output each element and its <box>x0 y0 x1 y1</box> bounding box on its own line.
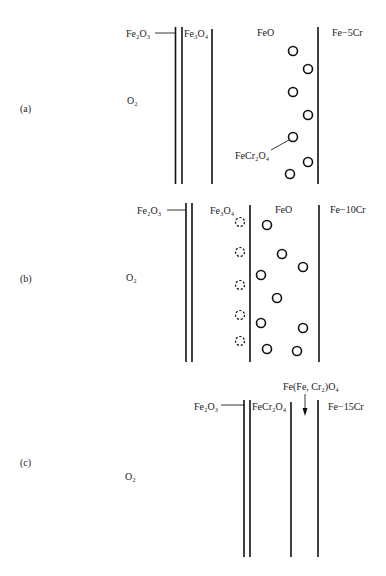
panel-a-gas-label: O₂ <box>127 95 138 106</box>
panel-a-fecr2o4-leader <box>271 140 289 150</box>
dashed-particle <box>236 311 245 320</box>
panel-c-tag: (c) <box>20 457 31 469</box>
particle <box>273 294 282 303</box>
panel-a-fecr2o4-particles <box>286 47 313 179</box>
panel-a-feo-label: FeO <box>257 27 274 38</box>
oxidation-scale-diagram: (a) O₂ Fe₂O₃ Fe₃O₄ FeO Fe−5Cr FeCr₂O₄ (b… <box>0 0 386 576</box>
dashed-particle <box>236 281 245 290</box>
panel-a-fecr2o4-label: FeCr₂O₄ <box>235 150 270 161</box>
dashed-particle <box>236 248 245 257</box>
panel-a: (a) O₂ Fe₂O₃ Fe₃O₄ FeO Fe−5Cr FeCr₂O₄ <box>20 27 363 184</box>
panel-c-spinel-label: Fe(Fe, Cr₂)O₄ <box>283 381 339 393</box>
particle <box>278 250 287 259</box>
panel-a-fe3o4-label: Fe₃O₄ <box>184 28 209 39</box>
dashed-particle <box>236 218 245 227</box>
particle <box>304 111 313 120</box>
dashed-particle <box>236 337 245 346</box>
panel-a-tag: (a) <box>20 103 31 115</box>
panel-c-fecr2o4-label: FeCr₂O₄ <box>252 401 287 412</box>
panel-b-dissolving-particles <box>236 218 245 346</box>
particle <box>257 271 266 280</box>
particle <box>299 263 308 272</box>
particle <box>257 319 266 328</box>
particle <box>263 345 272 354</box>
particle <box>263 221 272 230</box>
particle <box>289 133 298 142</box>
particle <box>304 158 313 167</box>
particle <box>293 347 302 356</box>
panel-b-solid-particles <box>257 221 308 356</box>
particle <box>299 324 308 333</box>
panel-c-fe2o3-label: Fe₂O₃ <box>194 401 218 412</box>
panel-c: (c) O₂ Fe(Fe, Cr₂)O₄ Fe₂O₃ FeCr₂O₄ Fe−15… <box>20 381 364 557</box>
panel-a-alloy-label: Fe−5Cr <box>332 27 363 38</box>
particle <box>286 170 295 179</box>
panel-a-fe2o3-label: Fe₂O₃ <box>126 28 150 39</box>
panel-b-fe2o3-label: Fe₂O₃ <box>137 205 161 216</box>
arrow-down-icon <box>303 408 308 416</box>
panel-c-alloy-label: Fe−15Cr <box>328 401 364 412</box>
panel-b-tag: (b) <box>20 273 32 285</box>
panel-b-alloy-label: Fe−10Cr <box>330 204 366 215</box>
particle <box>289 88 298 97</box>
panel-b-feo-label: FeO <box>275 204 292 215</box>
panel-b-gas-label: O₂ <box>126 272 137 283</box>
panel-b: (b) O₂ Fe₂O₃ Fe₃O₄ FeO Fe−10Cr <box>20 203 366 362</box>
particle <box>304 65 313 74</box>
panel-c-gas-label: O₂ <box>125 471 136 482</box>
panel-b-fe3o4-label: Fe₃O₄ <box>210 205 235 216</box>
particle <box>289 47 298 56</box>
